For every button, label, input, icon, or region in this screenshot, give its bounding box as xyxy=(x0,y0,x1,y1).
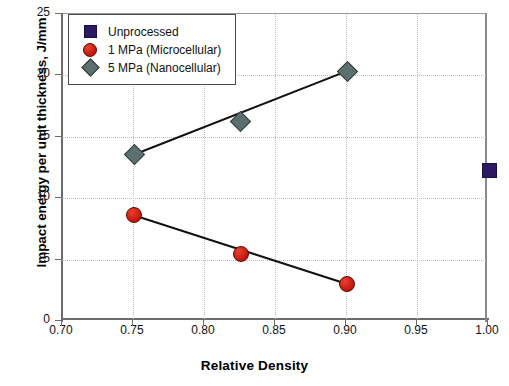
x-tick-mark xyxy=(487,320,488,326)
x-axis-label: Relative Density xyxy=(0,358,509,373)
y-tick-label: 5 xyxy=(10,251,50,265)
legend-item[interactable]: 1 MPa (Microcellular) xyxy=(79,41,227,58)
circle-marker-icon xyxy=(79,43,101,57)
data-point-marker[interactable] xyxy=(126,207,142,223)
legend-item-label: Unprocessed xyxy=(108,25,179,39)
impact-energy-scatter-chart: Impact energy per unit thickness, J/mm R… xyxy=(0,0,509,386)
data-point-marker[interactable] xyxy=(123,144,144,165)
data-point-marker[interactable] xyxy=(482,163,497,178)
y-axis-label: Impact energy per unit thickness, J/mm xyxy=(34,0,49,293)
data-point-marker[interactable] xyxy=(339,276,355,292)
legend-item-label: 1 MPa (Microcellular) xyxy=(108,43,221,57)
y-tick-label: 20 xyxy=(10,66,50,80)
x-tick-mark xyxy=(416,320,417,326)
x-tick-mark xyxy=(274,320,275,326)
x-tick-mark xyxy=(203,320,204,326)
legend-item[interactable]: 5 MPa (Nanocellular) xyxy=(79,59,227,76)
data-point-marker[interactable] xyxy=(336,61,357,82)
legend-item-label: 5 MPa (Nanocellular) xyxy=(108,61,221,75)
data-point-marker[interactable] xyxy=(233,246,249,262)
chart-legend: Unprocessed1 MPa (Microcellular)5 MPa (N… xyxy=(68,14,236,85)
vertical-gridline xyxy=(417,14,418,319)
horizontal-gridline xyxy=(62,137,486,138)
y-tick-label: 10 xyxy=(10,189,50,203)
diamond-marker-icon xyxy=(79,61,101,74)
square-marker-icon xyxy=(79,25,101,38)
vertical-gridline xyxy=(275,14,276,319)
x-tick-mark xyxy=(132,320,133,326)
legend-item[interactable]: Unprocessed xyxy=(79,23,227,40)
y-axis-line xyxy=(61,13,63,322)
y-tick-label: 15 xyxy=(10,128,50,142)
x-tick-mark xyxy=(345,320,346,326)
y-tick-label: 25 xyxy=(10,5,50,19)
horizontal-gridline xyxy=(62,198,486,199)
x-tick-label: 1.00 xyxy=(457,323,509,337)
